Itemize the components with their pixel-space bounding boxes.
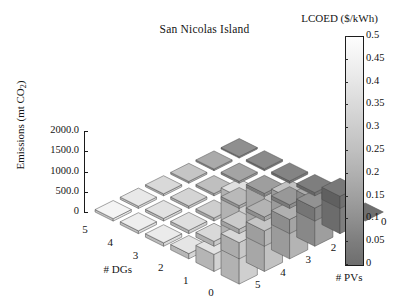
z-axis-tick-label: 0 — [27, 205, 79, 216]
z-axis-tick-mark — [84, 151, 88, 152]
colorbar-tick-label: 0.4 — [366, 75, 379, 86]
bar-3d — [246, 151, 282, 171]
colorbar-title: LCOED ($/kWh) — [270, 12, 409, 24]
bar-3d — [297, 174, 333, 195]
chart-title: San Nicolas Island — [0, 23, 409, 35]
z-axis-tick-mark — [84, 131, 88, 132]
bar-3d — [221, 187, 257, 208]
z-axis-title-text: Emissions (mt CO2) — [14, 81, 26, 170]
colorbar-tick-label: 0.35 — [366, 97, 384, 108]
z-axis-tick-label: 1000.0 — [27, 165, 79, 176]
z-axis-tick-label: 1500.0 — [27, 144, 79, 155]
bar-3d — [196, 151, 232, 171]
colorbar-tick-label: 0.3 — [366, 120, 379, 131]
bar-3d — [95, 201, 131, 222]
bar-3d — [271, 201, 307, 233]
colorbar-tick-mark — [345, 241, 348, 242]
bar-3d — [246, 178, 282, 271]
colorbar-tick-label: 0.05 — [366, 234, 384, 245]
colorbar-tick-mark — [345, 196, 348, 197]
colorbar-tick-mark — [345, 264, 348, 265]
bar-3d — [171, 235, 207, 258]
bar-3d — [196, 223, 232, 246]
y-axis-tick-label: 3 — [306, 253, 312, 265]
x-axis-tick-label: 4 — [108, 236, 114, 248]
bar-3d — [171, 188, 207, 209]
colorbar-tick-mark — [345, 173, 348, 174]
bar-3d — [271, 187, 307, 209]
bar-3d — [145, 200, 181, 221]
z-axis-tick-label: 500.0 — [27, 185, 79, 196]
y-axis-title: # PVs — [336, 271, 363, 283]
bar-3d — [171, 163, 207, 183]
bar-3d — [196, 176, 232, 196]
bar-3d — [171, 212, 207, 233]
bar-3d — [145, 225, 181, 247]
figure-canvas: San Nicolas Island Emissions (mt CO2) 05… — [0, 0, 409, 306]
z-axis-title: Emissions (mt CO2) — [14, 65, 28, 185]
colorbar-tick-label: 0 — [366, 257, 371, 268]
colorbar-tick-mark — [345, 82, 348, 83]
bar-3d — [246, 175, 282, 196]
bar-3d — [246, 213, 282, 247]
bar-3d — [221, 225, 257, 259]
bar-3d — [221, 179, 257, 284]
y-axis-tick-label: 0 — [381, 215, 387, 227]
bar-3d — [196, 200, 232, 221]
z-axis-tick-mark — [84, 172, 88, 173]
z-axis-tick-mark — [84, 192, 88, 193]
colorbar-tick-label: 0.1 — [366, 211, 379, 222]
colorbar-tick-label: 0.2 — [366, 166, 379, 177]
x-axis-tick-label: 1 — [183, 274, 189, 286]
bar-3d — [246, 199, 282, 221]
z-axis-tick-label: 2000.0 — [27, 124, 79, 135]
colorbar-tick-mark — [345, 36, 348, 37]
bar-3d — [297, 190, 333, 221]
bar-3d — [221, 211, 257, 234]
colorbar-tick-label: 0.25 — [366, 143, 384, 154]
bar-3d — [271, 163, 307, 183]
colorbar-tick-mark — [345, 104, 348, 105]
bar-3d — [196, 236, 232, 271]
bar-3d — [221, 139, 257, 159]
bar-3d — [145, 176, 181, 196]
colorbar-tick-mark — [345, 59, 348, 60]
colorbar-tick-label: 0.15 — [366, 189, 384, 200]
x-axis-tick-label: 3 — [133, 249, 139, 261]
y-axis-tick-label: 5 — [255, 278, 261, 290]
bar-3d — [271, 180, 307, 259]
bar-3d — [221, 163, 257, 183]
y-axis-tick-label: 4 — [280, 266, 286, 278]
bar-3d — [120, 213, 156, 234]
x-axis-title: # DGs — [104, 263, 132, 275]
colorbar-tick-mark — [345, 150, 348, 151]
bar-3d — [120, 188, 156, 208]
colorbar-tick-label: 0.45 — [366, 52, 384, 63]
z-axis-tick-mark — [84, 212, 88, 213]
x-axis-tick-label: 0 — [208, 286, 214, 298]
y-axis-tick-label: 2 — [331, 241, 337, 253]
colorbar-tick-mark — [345, 127, 348, 128]
x-axis-tick-label: 2 — [158, 261, 164, 273]
colorbar-tick-mark — [345, 218, 348, 219]
bar-3d — [297, 182, 333, 247]
colorbar-gradient — [345, 36, 364, 266]
colorbar-tick-label: 0.5 — [366, 29, 379, 40]
x-axis-tick-label: 5 — [82, 223, 88, 235]
